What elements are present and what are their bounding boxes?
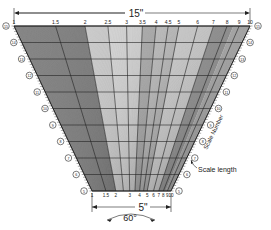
top-scale-label: 8: [226, 19, 229, 25]
log-scale-trapezoid-diagram: 15" 11.522.533.544.55678910 11.523456789…: [0, 0, 271, 230]
svg-text:14: 14: [12, 41, 16, 45]
svg-text:10: 10: [217, 107, 221, 111]
svg-text:11: 11: [225, 91, 229, 95]
svg-text:15: 15: [4, 25, 8, 29]
svg-text:8: 8: [202, 140, 204, 144]
top-scale-label: 4: [155, 19, 158, 25]
top-scale-label: 3: [125, 19, 128, 25]
svg-text:7: 7: [67, 157, 69, 161]
scale-number-circle: 7: [192, 155, 199, 162]
scale-number-circle: 8: [57, 138, 64, 145]
bottom-scale-label: 5: [146, 193, 149, 198]
bottom-scale-label: 7: [157, 193, 160, 198]
top-scale-labels: 11.522.533.544.55678910: [13, 19, 253, 25]
scale-number-circle: 9: [50, 122, 57, 129]
svg-text:7: 7: [194, 157, 196, 161]
scale-number-circle: 13: [239, 56, 246, 63]
scale-number-circle: 10: [215, 105, 222, 112]
svg-text:6: 6: [186, 173, 188, 177]
scale-number-circle: 11: [34, 89, 41, 96]
top-scale-label: 5: [178, 19, 181, 25]
bottom-scale-labels: 11.52345678910: [91, 193, 174, 198]
svg-text:5: 5: [178, 190, 180, 194]
svg-text:9: 9: [210, 124, 212, 128]
svg-text:10: 10: [43, 107, 47, 111]
scale-number-circle: 10: [42, 105, 49, 112]
svg-text:13: 13: [20, 58, 24, 62]
top-scale-label: 9: [238, 19, 241, 25]
angle-label: 60°: [123, 213, 137, 223]
svg-text:15: 15: [256, 25, 260, 29]
top-scale-label: 4.5: [165, 19, 172, 25]
scale-number-circle: 12: [231, 72, 238, 79]
scale-number-circle: 5: [81, 188, 88, 195]
scale-number-circle: 15: [255, 23, 262, 30]
scale-number-circle: 6: [184, 171, 191, 178]
top-scale-label: 1.5: [52, 19, 59, 25]
scale-length-label: Scale length: [198, 166, 237, 174]
top-scale-label: 2: [84, 19, 87, 25]
svg-text:9: 9: [52, 124, 54, 128]
scale-number-circle: 13: [18, 56, 25, 63]
scale-number-circle: 14: [247, 39, 254, 46]
bottom-dimension-label: 5": [138, 202, 148, 213]
svg-text:12: 12: [27, 74, 31, 78]
svg-text:8: 8: [60, 140, 62, 144]
bottom-scale-label: 6: [152, 193, 155, 198]
scale-number-circle: 6: [73, 171, 80, 178]
top-dimension-label: 15": [129, 8, 144, 19]
scale-number-circle: 7: [65, 155, 72, 162]
scale-number-circle: 11: [223, 89, 230, 96]
angle-annotation: 60°: [107, 213, 155, 223]
bottom-scale-label: 3: [128, 193, 131, 198]
top-scale-label: 2.5: [104, 19, 111, 25]
bottom-scale-label: 8: [162, 193, 165, 198]
bottom-scale-label: 2: [115, 193, 118, 198]
scale-number-circle: 12: [26, 72, 33, 79]
top-scale-label: 10: [247, 19, 253, 25]
top-scale-label: 1: [13, 19, 16, 25]
scale-number-circle: 14: [11, 39, 18, 46]
bottom-scale-label: 1.5: [103, 193, 110, 198]
svg-text:5: 5: [83, 190, 85, 194]
svg-text:11: 11: [35, 91, 39, 95]
scale-number-circle: 15: [3, 23, 10, 30]
top-scale-label: 6: [196, 19, 199, 25]
svg-text:13: 13: [240, 58, 244, 62]
scale-number-circle: 5: [176, 188, 183, 195]
bottom-scale-label: 4: [138, 193, 141, 198]
svg-text:14: 14: [248, 41, 252, 45]
top-scale-label: 3.5: [139, 19, 146, 25]
svg-text:12: 12: [232, 74, 236, 78]
svg-text:6: 6: [75, 173, 77, 177]
top-scale-label: 7: [212, 19, 215, 25]
scale-length-annotation: Scale length: [191, 160, 237, 174]
